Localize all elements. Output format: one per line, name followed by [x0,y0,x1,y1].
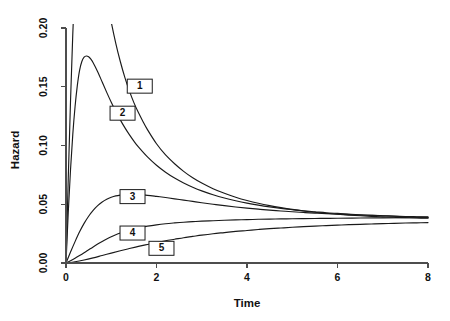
series-label-text-4: 4 [130,227,136,238]
series-label-text-2: 2 [120,107,126,118]
x-tick-label-3: 6 [335,271,341,283]
y-tick-label-2: 0.10 [37,135,49,156]
y-tick-label-0: 0.00 [37,253,49,274]
y-tick-label-3: 0.15 [37,76,49,97]
series-label-text-3: 3 [130,191,136,202]
series-label-1: 1 [127,79,152,93]
hazard-chart: 024680.000.050.100.150.20 12345 Time Haz… [0,0,450,321]
y-tick-label-1: 0.05 [37,194,49,215]
x-tick-label-4: 8 [425,271,431,283]
series-label-text-1: 1 [137,80,143,91]
hazard-plot-svg: 024680.000.050.100.150.20 12345 Time Haz… [0,0,450,321]
series-label-5: 5 [149,241,174,255]
x-tick-label-1: 2 [154,271,160,283]
y-axis-title: Hazard [9,131,21,169]
series-label-2: 2 [110,106,135,120]
x-tick-label-2: 4 [244,271,250,283]
series-label-3: 3 [120,190,145,204]
x-tick-label-0: 0 [63,271,69,283]
x-axis-title: Time [234,297,261,309]
series-label-4: 4 [120,226,145,240]
series-label-text-5: 5 [159,242,165,253]
y-tick-label-4: 0.20 [37,18,49,39]
